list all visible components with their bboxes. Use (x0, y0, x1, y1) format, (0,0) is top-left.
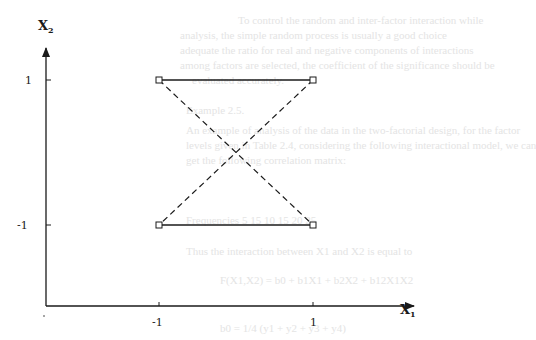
point-marker-1-neg1 (310, 222, 316, 228)
y-tick-label-neg1: -1 (17, 219, 28, 232)
point-marker-1-1 (310, 77, 316, 83)
x-axis-label: X1 (400, 302, 416, 319)
origin-dot (43, 315, 45, 317)
y-tick-label-1: 1 (25, 74, 32, 87)
point-marker-neg1-neg1 (156, 222, 162, 228)
x-tick-label-neg1: -1 (152, 316, 163, 329)
point-marker-neg1-1 (156, 77, 162, 83)
x-tick-label-1: 1 (310, 316, 317, 329)
y-axis-label: X2 (38, 18, 54, 35)
